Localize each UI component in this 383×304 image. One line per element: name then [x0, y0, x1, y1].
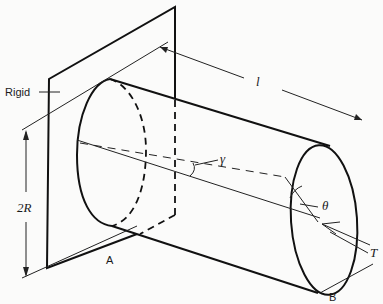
- torque-line-lower: [330, 232, 368, 253]
- torque-label: T: [370, 245, 378, 260]
- cylinder-end-b: [286, 143, 362, 297]
- end-b-label: B: [329, 291, 336, 303]
- end-a-label: A: [106, 254, 114, 266]
- rigid-label: Rigid: [5, 86, 30, 98]
- theta-label: θ: [322, 198, 329, 213]
- torque-line-upper: [322, 224, 370, 245]
- gamma-arc: [190, 163, 194, 176]
- length-arrowhead-right: [354, 114, 362, 120]
- length-arrowhead-left: [160, 47, 168, 53]
- cylinder: [77, 79, 362, 297]
- twisted-generator-line: [77, 140, 320, 218]
- theta-leader: [300, 204, 318, 207]
- rigid-wall-hidden-bottom: [140, 215, 175, 234]
- cylinder-bottom-edge: [112, 226, 318, 293]
- original-generator-dashed: [80, 143, 285, 177]
- length-label: l: [256, 74, 260, 89]
- length-dim-line-right: [282, 90, 362, 120]
- gamma-label: γ: [220, 151, 226, 166]
- diameter-label: 2R: [17, 200, 32, 215]
- cylinder-top-edge: [110, 79, 330, 146]
- cylinder-end-a-visible: [77, 79, 112, 226]
- length-extension-right: [320, 264, 373, 293]
- diameter-arrowhead-top: [23, 130, 29, 140]
- rigid-wall-outline: [47, 7, 175, 268]
- length-dimension: [22, 42, 373, 293]
- torsion-diagram: γ θ T Rigid l 2R A B: [0, 0, 383, 304]
- rigid-wall: [47, 7, 175, 268]
- torque-arrow: [322, 222, 370, 253]
- diameter-extension-bottom: [22, 226, 137, 278]
- length-dim-line-left: [160, 47, 244, 78]
- length-extension-left: [22, 42, 168, 130]
